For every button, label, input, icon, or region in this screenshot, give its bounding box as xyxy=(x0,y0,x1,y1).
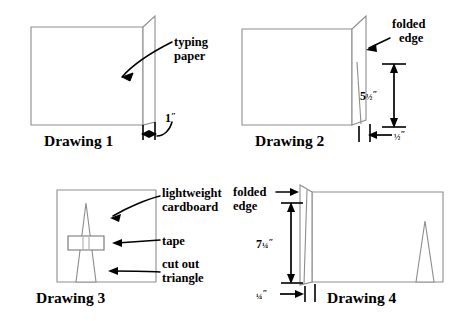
label-tape: tape xyxy=(162,234,185,248)
label-folded-edge-d4-line2: edge xyxy=(233,199,258,213)
label-cardboard-line1: lightweight xyxy=(162,186,223,200)
label-typing-paper-line1: typing xyxy=(174,35,209,49)
caption-drawing-4: Drawing 4 xyxy=(327,289,397,306)
drawing2-folded-edge-arrowhead xyxy=(366,44,377,52)
drawing4-quarter-inch-arrowhead xyxy=(295,290,304,298)
caption-drawing-2: Drawing 2 xyxy=(255,132,325,149)
dim-seven-and-quarter-inch: 7¼″ xyxy=(256,237,273,251)
label-cardboard-line2: cardboard xyxy=(162,200,218,214)
label-folded-edge-d4-line1: folded xyxy=(233,185,266,199)
dim-five-and-half-inch: 5½″ xyxy=(360,89,377,103)
drawing4-quarter-inch-extensions xyxy=(305,284,315,302)
figure-root: typing paper 1″ Drawing 1 folded edge 5½… xyxy=(0,0,458,321)
dim-quarter-inch: ¼″ xyxy=(256,288,267,301)
dim-one-inch: 1″ xyxy=(165,111,176,125)
label-folded-edge-d2-line2: edge xyxy=(399,31,424,45)
dim-half-inch: ½″ xyxy=(394,129,405,142)
drawing-1-group xyxy=(31,16,172,140)
drawing1-folded-flap xyxy=(143,16,155,125)
drawing2-paper-sheet xyxy=(242,29,352,125)
drawing2-folded-flap xyxy=(352,16,366,125)
drawing3-tape xyxy=(68,236,104,250)
label-cut-out-triangle-line1: cut out xyxy=(162,257,200,271)
caption-drawing-1: Drawing 1 xyxy=(44,132,113,149)
drawing4-folded-edge-arrowhead xyxy=(290,188,299,196)
label-cut-out-triangle-line2: triangle xyxy=(162,271,204,285)
label-folded-edge-d2-line1: folded xyxy=(392,17,425,31)
drawing-2-group xyxy=(242,16,406,142)
label-typing-paper-line2: paper xyxy=(174,49,206,63)
drawing2-half-inch-extensions xyxy=(359,124,370,142)
drawing-4-group xyxy=(276,185,443,302)
drawing-3-group xyxy=(57,190,160,282)
diagram-canvas: typing paper 1″ Drawing 1 folded edge 5½… xyxy=(0,0,458,321)
caption-drawing-3: Drawing 3 xyxy=(36,289,106,306)
